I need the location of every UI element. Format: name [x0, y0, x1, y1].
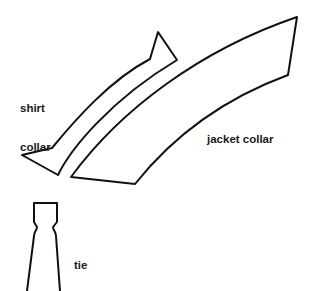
shirt-collar-label: shirt collar	[20, 76, 51, 167]
shirt-collar-label-line2: collar	[20, 141, 51, 154]
shirt-collar-label-line1: shirt	[20, 102, 51, 115]
tie-label: tie	[74, 259, 87, 272]
jacket-collar-shape	[71, 17, 297, 184]
jacket-collar-label: jacket collar	[207, 133, 273, 146]
tie-shape	[27, 203, 60, 291]
